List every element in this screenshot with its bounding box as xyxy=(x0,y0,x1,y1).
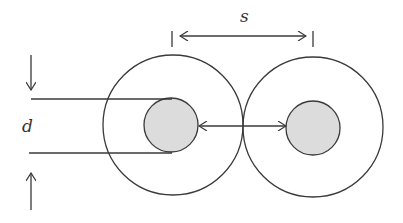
left-conductor xyxy=(144,98,198,152)
diameter-label: d xyxy=(22,116,33,136)
two-wire-line-diagram: s d xyxy=(0,0,403,223)
right-conductor xyxy=(286,101,340,155)
spacing-label: s xyxy=(240,6,249,26)
diagram-canvas xyxy=(0,0,403,223)
